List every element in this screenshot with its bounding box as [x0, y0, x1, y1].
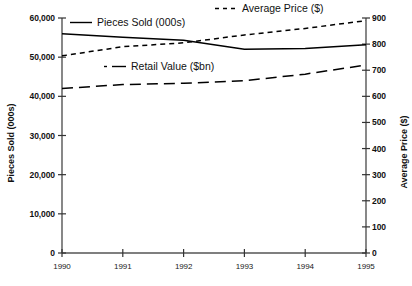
legend-label-retail-value: Retail Value ($bn) [131, 61, 214, 72]
y-axis-right-tick-label: 900 [372, 13, 386, 23]
y-axis-right-title: Average Price ($) [399, 72, 409, 232]
x-axis-tick-label: 1995 [357, 262, 374, 271]
x-axis-tick-label: 1992 [175, 262, 192, 271]
y-axis-right-tick-label: 800 [372, 39, 386, 49]
data-series-layer [62, 21, 366, 89]
y-axis-left-tick-label: 60,000 [0, 13, 55, 23]
chart-plot-area [0, 0, 412, 286]
y-axis-right-tick-label: 200 [372, 196, 386, 206]
legend-label-average-price: Average Price ($) [242, 3, 324, 14]
y-axis-right-tick-label: 400 [372, 144, 386, 154]
y-axis-right-tick-label: 700 [372, 65, 386, 75]
y-axis-right-tick-label: 300 [372, 170, 386, 180]
legend-item-retail-value: Retail Value ($bn) [104, 61, 214, 72]
chart-container: 60,00050,00040,00030,00020,00010,0000 90… [0, 0, 412, 286]
legend-item-average-price: Average Price ($) [215, 3, 324, 14]
x-axis-tick-label: 1991 [114, 262, 131, 271]
y-axis-left-tick-label: 50,000 [0, 52, 55, 62]
y-axis-right-tick-label: 0 [372, 248, 377, 258]
y-axis-right-tick-label: 100 [372, 222, 386, 232]
y-axis-right-tick-label: 600 [372, 91, 386, 101]
x-axis-tick-label: 1990 [53, 262, 70, 271]
y-axis-left-title: Pieces Sold (000s) [6, 63, 16, 223]
legend-swatch-solid-icon [70, 18, 92, 27]
y-axis-right-tick-label: 500 [372, 117, 386, 127]
axis-lines [62, 18, 366, 253]
legend-label-pieces-sold: Pieces Sold (000s) [97, 17, 185, 28]
legend-swatch-dashed-icon [104, 62, 126, 71]
x-axis-tick-label: 1994 [296, 262, 313, 271]
y-axis-left-tick-label: 0 [0, 248, 55, 258]
legend-item-pieces-sold: Pieces Sold (000s) [70, 17, 185, 28]
legend-swatch-dotted-icon [215, 4, 237, 13]
tick-marks [58, 18, 370, 257]
x-axis-tick-label: 1993 [236, 262, 253, 271]
series-line-pieces-sold-000s [62, 34, 366, 50]
